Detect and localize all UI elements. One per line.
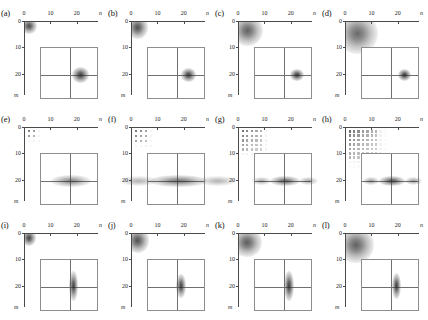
panel-g: (g)0102001020nm <box>214 106 321 212</box>
lattice-dot <box>255 130 257 132</box>
y-tick-label: 20 <box>12 283 21 289</box>
lattice-dot <box>246 130 248 132</box>
panel-label: (e) <box>1 114 10 124</box>
y-tick-label: 0 <box>226 18 235 24</box>
lattice-dot <box>349 143 352 146</box>
x-axis-name: n <box>313 10 316 16</box>
lattice-dot <box>357 152 360 155</box>
inset-peak <box>379 176 405 186</box>
x-tick-label: 20 <box>288 116 294 122</box>
density-blob <box>239 22 263 46</box>
inset-peak <box>392 273 401 300</box>
x-tick-label: 0 <box>237 10 240 16</box>
lattice-dot <box>265 144 267 146</box>
lattice-dot <box>242 144 244 146</box>
y-tick-label: 20 <box>119 283 128 289</box>
panel-label: (k) <box>215 220 224 230</box>
inset-peak <box>284 271 294 300</box>
lattice-dot <box>349 148 352 151</box>
lattice-dot <box>145 130 147 132</box>
x-tick-label: 20 <box>181 116 187 122</box>
lattice-dot <box>371 148 374 151</box>
inset-satellite <box>299 177 318 185</box>
inset-peak <box>270 176 300 186</box>
density-blob <box>132 22 148 39</box>
lattice-dot <box>28 135 30 137</box>
lattice-dot <box>255 139 257 141</box>
lattice-dot <box>265 139 267 141</box>
x-tick-label: 0 <box>23 116 26 122</box>
lattice-dot <box>357 165 360 168</box>
lattice-dot <box>362 148 365 151</box>
lattice-dot <box>384 139 387 142</box>
inset-peak <box>51 175 90 188</box>
lattice-dot <box>362 143 365 146</box>
panel-e: (e)0102001020nm <box>0 106 107 212</box>
lattice-dot <box>366 139 369 142</box>
x-axis-name: n <box>420 116 423 122</box>
lattice-dot <box>371 134 374 137</box>
x-axis-name: n <box>206 10 209 16</box>
lattice-dot <box>362 139 365 142</box>
lattice-dot <box>260 148 262 150</box>
inset-plot <box>40 47 98 99</box>
x-tick-label: 0 <box>344 116 347 122</box>
lattice-dot <box>357 134 360 137</box>
inset-satellite <box>252 177 271 185</box>
lattice-dot <box>135 135 137 137</box>
lattice-dot <box>357 156 360 159</box>
lattice-dot <box>140 140 142 142</box>
y-tick-label: 10 <box>226 150 235 156</box>
lattice-dot <box>353 143 356 146</box>
lattice-dot <box>251 144 253 146</box>
lattice-dot <box>242 148 244 150</box>
lattice-dot <box>371 143 374 146</box>
x-tick-label: 0 <box>344 10 347 16</box>
density-blob <box>25 22 37 34</box>
lattice-dot <box>242 139 244 141</box>
lattice-dot <box>379 143 382 146</box>
lattice-dot <box>145 135 147 137</box>
y-tick-label: 10 <box>12 44 21 50</box>
y-tick-label: 0 <box>119 124 128 130</box>
lattice-dot <box>349 152 352 155</box>
y-tick-label: 20 <box>333 71 342 77</box>
lattice-dot <box>353 161 356 164</box>
lattice-dot <box>375 148 378 151</box>
panel-f: (f)0102001020nm <box>107 106 214 212</box>
panel-label: (g) <box>215 114 224 124</box>
lattice-dot <box>246 148 248 150</box>
y-axis-name: m <box>121 304 125 310</box>
lattice-dot <box>379 130 382 133</box>
lattice-dot <box>135 130 137 132</box>
lattice-dot <box>353 152 356 155</box>
lattice-dot <box>366 134 369 137</box>
panel-b: (b)0102001020nm <box>107 0 214 106</box>
x-tick-label: 0 <box>23 222 26 228</box>
inset-horizontal-axis <box>255 287 311 288</box>
y-tick-label: 20 <box>119 71 128 77</box>
y-axis-name: m <box>14 92 18 98</box>
x-tick-label: 10 <box>368 222 374 228</box>
x-tick-label: 20 <box>74 10 80 16</box>
x-tick-label: 10 <box>154 10 160 16</box>
inset-peak <box>398 69 411 81</box>
y-tick-label: 0 <box>333 124 342 130</box>
lattice-dot <box>145 145 147 147</box>
inset-plot <box>147 47 205 99</box>
inset-vertical-axis <box>177 48 178 98</box>
lattice-dot <box>366 143 369 146</box>
lattice-dot <box>246 153 248 155</box>
lattice-dot <box>242 130 244 132</box>
lattice-dot <box>379 134 382 137</box>
y-axis-name: m <box>228 92 232 98</box>
inset-plot <box>40 153 98 205</box>
x-tick-label: 10 <box>47 116 53 122</box>
lattice-dot <box>357 139 360 142</box>
x-tick-label: 0 <box>237 222 240 228</box>
lattice-dot <box>384 143 387 146</box>
panel-l: (l)0102001020nm <box>321 212 428 318</box>
inset-peak <box>290 69 304 82</box>
lattice-dot <box>375 134 378 137</box>
y-tick-label: 0 <box>12 18 21 24</box>
